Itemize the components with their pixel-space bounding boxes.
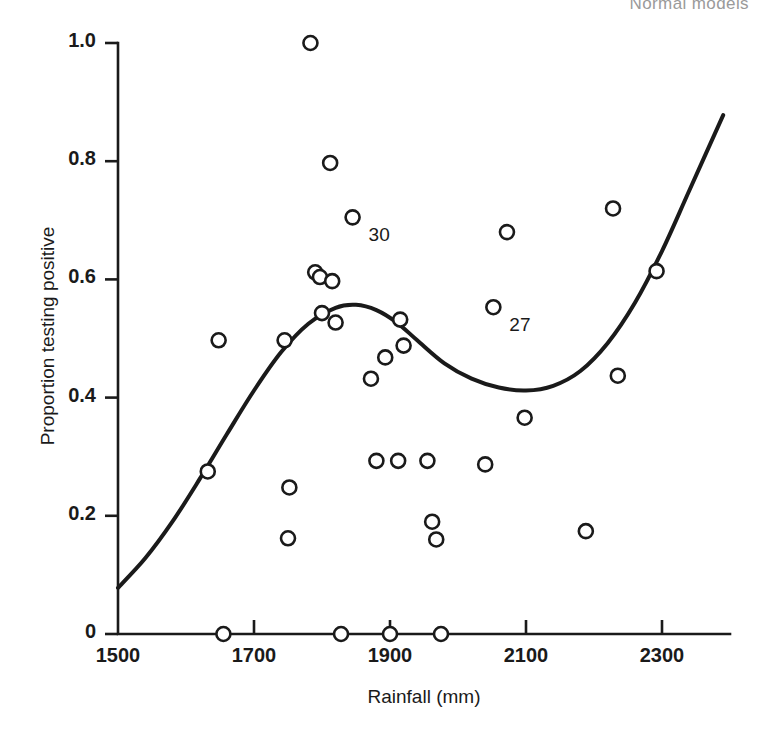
scatter-point [393, 313, 407, 327]
x-axis-tick-label: 1900 [345, 644, 435, 667]
y-axis-tick-label: 0.2 [36, 502, 96, 525]
scatter-point [315, 306, 329, 320]
x-axis-label: Rainfall (mm) [118, 686, 730, 708]
scatter-point [518, 411, 532, 425]
fitted-curve [118, 115, 723, 588]
scatter-point [397, 339, 411, 353]
scatter-point [391, 454, 405, 468]
scatter-point [303, 36, 317, 50]
scatter-point [325, 274, 339, 288]
axis-spines [118, 43, 730, 634]
scatter-point [606, 201, 620, 215]
scatter-point [486, 300, 500, 314]
scatter-plot-canvas [0, 0, 763, 734]
scatter-point [420, 454, 434, 468]
y-axis-tick-label: 0 [36, 620, 96, 643]
x-axis-tick-label: 1500 [73, 644, 163, 667]
point-annotation-label: 27 [509, 314, 530, 336]
scatter-point [650, 264, 664, 278]
scatter-point [282, 480, 296, 494]
scatter-point [478, 457, 492, 471]
scatter-point [278, 333, 292, 347]
scatter-point [281, 531, 295, 545]
scatter-point [579, 524, 593, 538]
x-axis-tick-label: 2100 [481, 644, 571, 667]
scatter-point [429, 532, 443, 546]
scatter-point [212, 333, 226, 347]
y-axis-label: Proportion testing positive [37, 196, 59, 476]
scatter-point [378, 350, 392, 364]
scatter-point [346, 210, 360, 224]
scatter-point [201, 464, 215, 478]
scatter-point [369, 454, 383, 468]
scatter-point [329, 316, 343, 330]
scatter-points [201, 36, 664, 641]
scatter-point [323, 156, 337, 170]
figure-container: Normal models Proportion testing positiv… [0, 0, 763, 734]
y-axis-tick-label: 0.4 [36, 384, 96, 407]
scatter-point [383, 627, 397, 641]
scatter-point [364, 372, 378, 386]
scatter-point [434, 627, 448, 641]
y-axis-tick-label: 1.0 [36, 29, 96, 52]
x-axis-tick-label: 1700 [209, 644, 299, 667]
y-axis-tick-label: 0.8 [36, 147, 96, 170]
scatter-point [425, 515, 439, 529]
point-annotation-label: 30 [369, 224, 390, 246]
x-axis-tick-label: 2300 [617, 644, 707, 667]
scatter-point [216, 627, 230, 641]
scatter-point [334, 627, 348, 641]
scatter-point [611, 369, 625, 383]
scatter-point [500, 225, 514, 239]
y-axis-tick-label: 0.6 [36, 265, 96, 288]
